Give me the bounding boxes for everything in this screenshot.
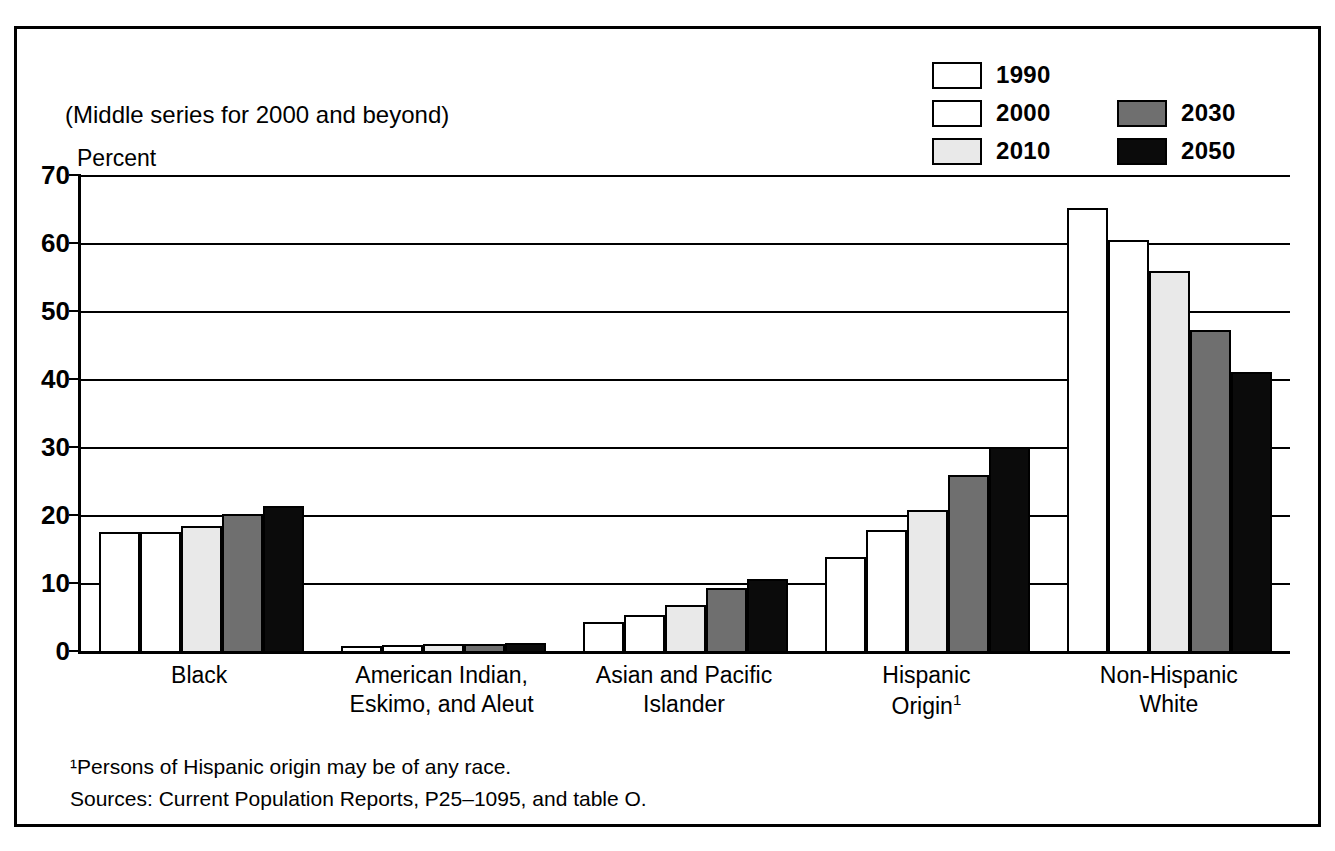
bar[interactable] bbox=[181, 526, 222, 651]
bar[interactable] bbox=[747, 579, 788, 651]
plot-area: 010203040506070 bbox=[78, 175, 1290, 654]
bar[interactable] bbox=[505, 643, 546, 651]
legend-item-2050[interactable]: 2050 bbox=[1117, 132, 1236, 170]
legend-swatch-2050 bbox=[1117, 138, 1167, 165]
bar[interactable] bbox=[140, 532, 181, 651]
bar[interactable] bbox=[866, 530, 907, 651]
bar-group bbox=[806, 175, 1048, 651]
footnote-line-1: ¹Persons of Hispanic origin may be of an… bbox=[70, 751, 647, 783]
legend-label-2050: 2050 bbox=[1181, 139, 1236, 163]
y-axis-title: Percent bbox=[77, 145, 156, 172]
y-tick-label-0: 0 bbox=[56, 636, 70, 667]
y-tick-mark-40 bbox=[69, 378, 81, 380]
x-axis-labels: BlackAmerican Indian, Eskimo, and AleutA… bbox=[78, 661, 1290, 722]
y-tick-mark-20 bbox=[69, 514, 81, 516]
footnote-line-2: Sources: Current Population Reports, P25… bbox=[70, 783, 647, 815]
bar[interactable] bbox=[948, 475, 989, 651]
bar[interactable] bbox=[1149, 271, 1190, 651]
x-axis-label-superscript: 1 bbox=[953, 691, 961, 708]
footnotes: ¹Persons of Hispanic origin may be of an… bbox=[70, 751, 647, 815]
bar[interactable] bbox=[382, 645, 423, 651]
y-tick-label-20: 20 bbox=[41, 500, 70, 531]
bar[interactable] bbox=[825, 557, 866, 651]
bar[interactable] bbox=[341, 646, 382, 651]
bar-group bbox=[565, 175, 807, 651]
bar[interactable] bbox=[1190, 330, 1231, 651]
bar[interactable] bbox=[624, 615, 665, 651]
legend-label-2000: 2000 bbox=[996, 101, 1051, 125]
bar-group bbox=[323, 175, 565, 651]
legend: 1990 2000 2010 2030 2050 bbox=[932, 56, 1262, 172]
bar[interactable] bbox=[464, 644, 505, 651]
bar[interactable] bbox=[665, 605, 706, 651]
legend-item-2030[interactable]: 2030 bbox=[1117, 94, 1236, 132]
bar[interactable] bbox=[907, 510, 948, 651]
figure-frame: 1990 2000 2010 2030 2050 (Middle series … bbox=[14, 26, 1321, 827]
x-axis-label: HispanicOrigin1 bbox=[805, 661, 1047, 722]
y-tick-mark-10 bbox=[69, 582, 81, 584]
legend-item-2000[interactable]: 2000 bbox=[932, 94, 1051, 132]
bar[interactable] bbox=[423, 644, 464, 651]
legend-item-2010[interactable]: 2010 bbox=[932, 132, 1051, 170]
y-tick-label-70: 70 bbox=[41, 160, 70, 191]
x-axis-label: Asian and Pacific Islander bbox=[563, 661, 805, 722]
y-tick-label-30: 30 bbox=[41, 432, 70, 463]
legend-swatch-1990 bbox=[932, 62, 982, 89]
bar[interactable] bbox=[1067, 208, 1108, 651]
bar-group bbox=[1048, 175, 1290, 651]
legend-column-left: 1990 2000 2010 bbox=[932, 56, 1051, 170]
bar[interactable] bbox=[989, 447, 1030, 651]
legend-column-right: 2030 2050 bbox=[1117, 94, 1236, 170]
legend-item-1990[interactable]: 1990 bbox=[932, 56, 1051, 94]
bar-groups bbox=[81, 175, 1290, 651]
y-tick-mark-30 bbox=[69, 446, 81, 448]
bar[interactable] bbox=[99, 532, 140, 651]
clipped-header-text bbox=[0, 0, 1335, 10]
y-tick-label-40: 40 bbox=[41, 364, 70, 395]
y-tick-label-60: 60 bbox=[41, 228, 70, 259]
legend-swatch-2010 bbox=[932, 138, 982, 165]
chart-subtitle: (Middle series for 2000 and beyond) bbox=[65, 101, 449, 129]
legend-swatch-2030 bbox=[1117, 100, 1167, 127]
y-tick-label-10: 10 bbox=[41, 568, 70, 599]
legend-label-2030: 2030 bbox=[1181, 101, 1236, 125]
y-tick-mark-0 bbox=[69, 650, 81, 652]
bar[interactable] bbox=[1231, 372, 1272, 651]
y-tick-mark-60 bbox=[69, 242, 81, 244]
bar[interactable] bbox=[263, 506, 304, 651]
legend-label-2010: 2010 bbox=[996, 139, 1051, 163]
y-tick-mark-70 bbox=[69, 174, 81, 176]
bar[interactable] bbox=[1108, 240, 1149, 651]
x-axis-label: Non-Hispanic White bbox=[1048, 661, 1290, 722]
bar[interactable] bbox=[222, 514, 263, 651]
x-axis-label: American Indian, Eskimo, and Aleut bbox=[320, 661, 562, 722]
y-tick-mark-50 bbox=[69, 310, 81, 312]
y-tick-label-50: 50 bbox=[41, 296, 70, 327]
legend-label-1990: 1990 bbox=[996, 63, 1051, 87]
x-axis-label: Black bbox=[78, 661, 320, 722]
bar[interactable] bbox=[706, 588, 747, 651]
bar[interactable] bbox=[583, 622, 624, 651]
bar-group bbox=[81, 175, 323, 651]
legend-swatch-2000 bbox=[932, 100, 982, 127]
